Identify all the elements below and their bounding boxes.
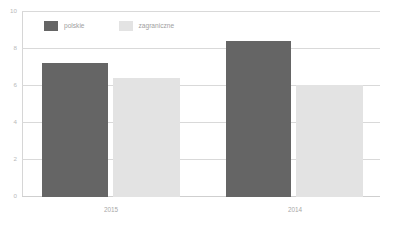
y-tick-label-8: 8	[0, 45, 17, 51]
y-tick-label-6: 6	[0, 82, 17, 88]
gridline-10	[22, 11, 380, 12]
y-tick-label-0: 0	[0, 193, 17, 199]
legend-item-polskie: polskie	[44, 21, 85, 31]
legend-swatch-icon-zagraniczne	[119, 21, 133, 31]
bar-2015-polskie	[42, 63, 108, 197]
legend-label-zagraniczne: zagraniczne	[139, 23, 175, 30]
gridline-8	[22, 48, 380, 49]
bar-2014-zagraniczne	[296, 85, 363, 197]
y-tick-label-10: 10	[0, 8, 17, 14]
bar-2015-zagraniczne	[113, 78, 180, 197]
y-tick-label-4: 4	[0, 119, 17, 125]
bar-2014-polskie	[226, 41, 291, 197]
legend-swatch-icon-polskie	[44, 21, 58, 31]
bar-chart: 10 8 6 4 2 0 2015 2014 polskie zagranicz…	[0, 0, 394, 229]
plot-area	[22, 11, 380, 197]
legend-label-polskie: polskie	[64, 23, 85, 30]
x-tick-label-2014: 2014	[267, 207, 323, 213]
legend: polskie zagraniczne	[44, 21, 174, 31]
chart-caption	[5, 221, 389, 229]
legend-item-zagraniczne: zagraniczne	[119, 21, 175, 31]
x-tick-label-2015: 2015	[83, 207, 139, 213]
y-tick-label-2: 2	[0, 156, 17, 162]
